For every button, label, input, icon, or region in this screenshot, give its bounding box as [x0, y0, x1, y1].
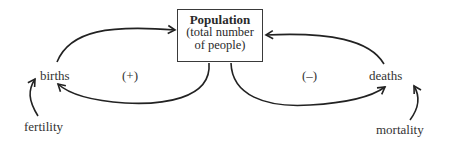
mortality-label: mortality	[376, 122, 424, 138]
births-to-population-arrow	[57, 28, 175, 62]
fertility-to-births-arrow	[30, 79, 38, 116]
fertility-label: fertility	[24, 119, 63, 135]
deaths-to-population-arrow	[266, 34, 384, 64]
births-label: births	[40, 68, 70, 84]
reinforcing-loop-sign: (+)	[122, 68, 138, 84]
population-stock-box: Population (total number of people)	[177, 9, 263, 62]
mortality-to-deaths-arrow	[410, 86, 418, 120]
deaths-label: deaths	[369, 68, 402, 84]
population-subtitle-2: of people)	[178, 39, 262, 52]
balancing-loop-sign: (–)	[302, 68, 317, 84]
